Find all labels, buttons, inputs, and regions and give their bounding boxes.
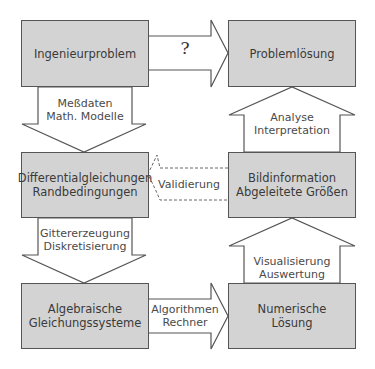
box-label-line-1: Differentialgleichungen: [18, 171, 152, 185]
arrow-label-gittererzeugung: Gittererzeugung Diskretisierung: [30, 227, 140, 253]
label-line-2: Auswertung: [240, 268, 344, 281]
label-line-1: Meßdaten: [38, 97, 132, 110]
box-label: Ingenieurproblem: [34, 47, 136, 61]
box-label-line-2: Lösung: [258, 316, 327, 330]
label-line-2: Rechner: [150, 316, 220, 329]
box-label-line-2: Randbedingungen: [18, 185, 152, 199]
box-label-line-2: Gleichungssysteme: [29, 316, 142, 330]
box-ingenieurproblem: Ingenieurproblem: [21, 20, 149, 87]
arrow-label-validierung: Validierung: [156, 178, 222, 191]
arrow-label-question: ?: [170, 42, 200, 55]
label-line-2: Math. Modelle: [38, 110, 132, 123]
box-label-line-1: Algebraische: [29, 302, 142, 316]
label-line-1: Analyse: [240, 111, 344, 124]
arrow-label-algorithmen: Algorithmen Rechner: [150, 303, 220, 329]
box-algebraische: Algebraische Gleichungssysteme: [21, 283, 149, 349]
label-line-1: Algorithmen: [150, 303, 220, 316]
arrow-label-messdaten: Meßdaten Math. Modelle: [38, 97, 132, 123]
arrow-label-analyse: Analyse Interpretation: [240, 111, 344, 137]
label-line-1: Visualisierung: [240, 255, 344, 268]
arrow-label-visualisierung: Visualisierung Auswertung: [240, 255, 344, 281]
box-problemloesung: Problemlösung: [228, 20, 356, 87]
box-numerische: Numerische Lösung: [228, 283, 356, 349]
box-label: Problemlösung: [249, 47, 334, 61]
label-line-2: Diskretisierung: [30, 240, 140, 253]
box-label-line-1: Numerische: [258, 302, 327, 316]
label-line-1: Gittererzeugung: [30, 227, 140, 240]
box-bildinformation: Bildinformation Abgeleitete Größen: [228, 152, 356, 218]
box-differentialgleichungen: Differentialgleichungen Randbedingungen: [21, 152, 149, 218]
label-line-2: Interpretation: [240, 124, 344, 137]
box-label-line-1: Bildinformation: [236, 171, 348, 185]
box-label-line-2: Abgeleitete Größen: [236, 185, 348, 199]
